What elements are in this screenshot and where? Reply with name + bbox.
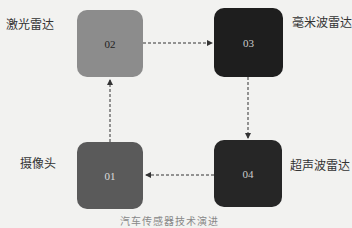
node-01-box: 01 (77, 142, 143, 209)
node-04-id: 04 (243, 168, 254, 180)
node-03-box: 03 (214, 8, 283, 77)
node-04-label: 超声波雷达 (290, 156, 350, 173)
node-01-label: 摄像头 (20, 154, 56, 171)
node-03-label: 毫米波雷达 (292, 13, 352, 30)
node-02-label: 激光雷达 (6, 15, 54, 32)
node-01-id: 01 (105, 170, 116, 182)
figure-caption: 汽车传感器技术演进 (120, 213, 219, 228)
node-02-id: 02 (105, 38, 116, 50)
node-03-id: 03 (243, 37, 254, 49)
node-02-box: 02 (77, 10, 143, 77)
node-04-box: 04 (214, 140, 282, 207)
